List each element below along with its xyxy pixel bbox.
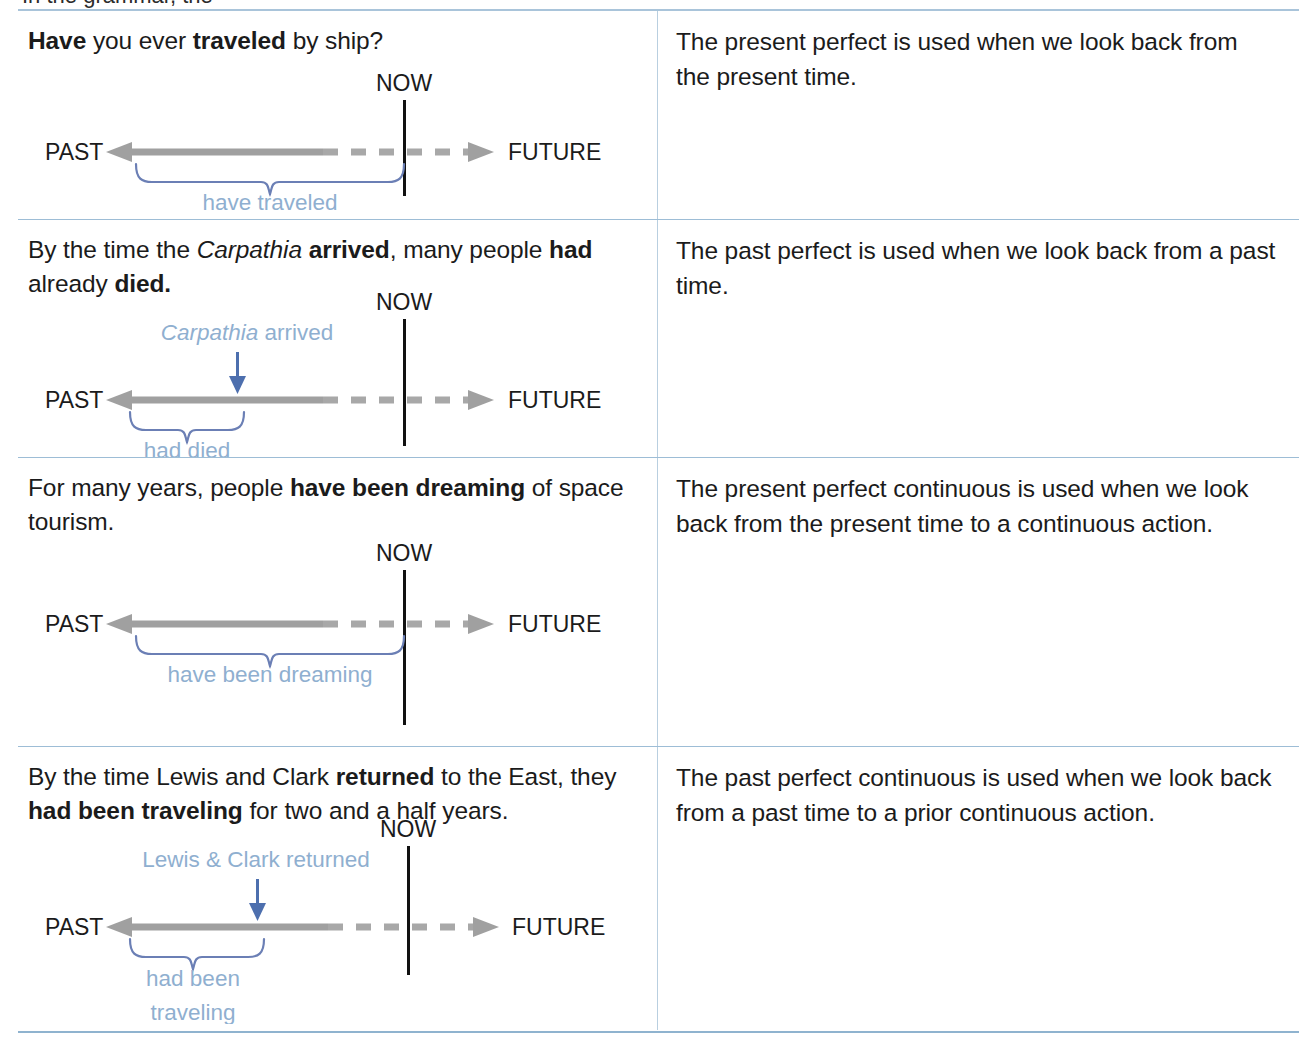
example-seg: Carpathia bbox=[197, 236, 302, 263]
brace-label: had died bbox=[144, 438, 230, 458]
explanation-text: The past perfect is used when we look ba… bbox=[676, 233, 1276, 303]
event-arrowhead bbox=[229, 376, 246, 394]
brace-label-line1: had been bbox=[146, 966, 240, 991]
table-row: For many years, people have been dreamin… bbox=[18, 458, 1299, 747]
explanation-cell: The present perfect continuous is used w… bbox=[658, 458, 1299, 747]
example-seg: , many people bbox=[390, 236, 549, 263]
explanation-cell: The past perfect continuous is used when… bbox=[658, 747, 1299, 1034]
future-arrowhead bbox=[468, 390, 494, 410]
table-row: By the time the Carpathia arrived, many … bbox=[18, 220, 1299, 458]
example-seg: had bbox=[549, 236, 592, 263]
example-seg: you ever bbox=[86, 27, 193, 54]
table-row: By the time Lewis and Clark returned to … bbox=[18, 747, 1299, 1034]
example-seg: arrived bbox=[309, 236, 390, 263]
past-arrowhead bbox=[106, 614, 132, 634]
past-label: PAST bbox=[45, 139, 103, 165]
perfect-tenses-table: Have you ever traveled by ship? NOW PAST… bbox=[18, 9, 1299, 1033]
example-seg: By the time the bbox=[28, 236, 197, 263]
event-arrowhead bbox=[249, 903, 266, 921]
past-label: PAST bbox=[45, 914, 103, 940]
example-seg: to the East, they bbox=[434, 763, 616, 790]
past-arrowhead bbox=[106, 917, 132, 937]
past-label: PAST bbox=[45, 387, 103, 413]
timeline-diagram: NOW PAST FUTURE bbox=[18, 63, 657, 213]
past-label: PAST bbox=[45, 611, 103, 637]
brace-label-line2: traveling bbox=[150, 1000, 235, 1024]
future-label: FUTURE bbox=[508, 387, 601, 413]
now-label: NOW bbox=[380, 816, 437, 842]
duration-brace bbox=[130, 939, 264, 969]
now-label: NOW bbox=[376, 540, 433, 566]
example-seg: traveled bbox=[193, 27, 286, 54]
example-seg: Have bbox=[28, 27, 86, 54]
brace-label: have been dreaming bbox=[167, 662, 372, 687]
timeline-diagram: NOW PAST FUTURE have been dreaming bbox=[18, 533, 657, 743]
brace-label: have traveled bbox=[202, 190, 337, 213]
example-sentence: For many years, people have been dreamin… bbox=[28, 471, 628, 539]
example-cell: By the time Lewis and Clark returned to … bbox=[18, 747, 657, 1034]
now-label: NOW bbox=[376, 70, 433, 96]
future-arrowhead bbox=[468, 614, 494, 634]
example-seg bbox=[302, 236, 309, 263]
example-sentence: Have you ever traveled by ship? bbox=[28, 24, 628, 58]
explanation-text: The past perfect continuous is used when… bbox=[676, 760, 1276, 830]
event-label: Lewis & Clark returned bbox=[142, 847, 370, 872]
cut-off-text-sliver: In the grammar, the bbox=[0, 0, 1314, 9]
explanation-cell: The present perfect is used when we look… bbox=[658, 11, 1299, 220]
explanation-text: The present perfect continuous is used w… bbox=[676, 471, 1276, 541]
example-seg: returned bbox=[336, 763, 435, 790]
example-seg: by ship? bbox=[286, 27, 383, 54]
example-cell: Have you ever traveled by ship? NOW PAST… bbox=[18, 11, 657, 220]
table-row: Have you ever traveled by ship? NOW PAST… bbox=[18, 11, 1299, 220]
future-arrowhead bbox=[473, 917, 499, 937]
example-seg: have been dreaming bbox=[290, 474, 525, 501]
future-arrowhead bbox=[468, 142, 494, 162]
example-cell: By the time the Carpathia arrived, many … bbox=[18, 220, 657, 458]
explanation-cell: The past perfect is used when we look ba… bbox=[658, 220, 1299, 458]
event-label: Carpathia arrived bbox=[161, 320, 334, 345]
explanation-text: The present perfect is used when we look… bbox=[676, 24, 1276, 94]
now-label: NOW bbox=[376, 289, 433, 315]
example-cell: For many years, people have been dreamin… bbox=[18, 458, 657, 747]
timeline-diagram: NOW Lewis & Clark returned PAST FUTURE h… bbox=[18, 809, 657, 1024]
past-arrowhead bbox=[106, 142, 132, 162]
future-label: FUTURE bbox=[512, 914, 605, 940]
future-label: FUTURE bbox=[508, 611, 601, 637]
cut-off-text: In the grammar, the bbox=[22, 0, 213, 9]
past-arrowhead bbox=[106, 390, 132, 410]
example-seg: For many years, people bbox=[28, 474, 290, 501]
future-label: FUTURE bbox=[508, 139, 601, 165]
example-seg: By the time Lewis and Clark bbox=[28, 763, 336, 790]
timeline-diagram: NOW Carpathia arrived PAST FUTURE had di… bbox=[18, 282, 657, 458]
